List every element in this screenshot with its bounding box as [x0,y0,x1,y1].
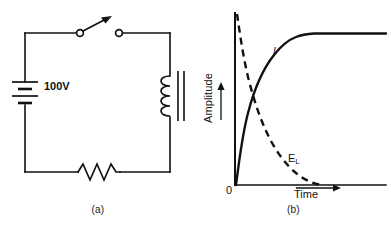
resistor-symbol [78,164,120,180]
switch-blade-arrowhead [101,16,112,24]
panel-a-circuit-diagram: 100V (a) [0,0,196,232]
inductor-coil-windings [161,76,170,116]
battery-voltage-label: 100V [44,80,70,92]
inductor-symbol [161,76,170,116]
x-axis-label-time: Time [294,188,318,200]
graph-axes [235,13,386,185]
inductor-iron-core [178,71,184,121]
panel-b-caption: (b) [196,204,391,215]
curve-label-inductor-voltage: EL [288,152,300,164]
figure-container: 100V (a) Amplitude [0,0,391,232]
circuit-schematic-svg [0,0,196,232]
switch-terminal-right [116,30,123,37]
panel-a-caption: (a) [0,204,196,215]
switch-symbol [77,16,123,36]
curve-label-inductor-voltage-subscript: L [295,157,299,166]
origin-label: 0 [226,184,232,196]
panel-b-response-graph: Amplitude Time 0 I EL (b) [196,0,391,232]
amplitude-arrow-head [217,82,224,90]
battery-symbol [12,82,38,103]
y-axis-label-amplitude: Amplitude [202,65,214,131]
curve-inductor-voltage-EL [237,14,320,185]
curve-label-current: I [273,46,276,57]
